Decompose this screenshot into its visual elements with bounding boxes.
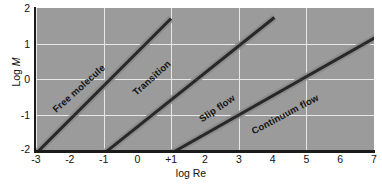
gridline-horizontal <box>36 44 374 45</box>
x-tick-label: 7 <box>362 153 382 165</box>
y-axis-line <box>34 7 36 152</box>
y-axis-label-text: Log <box>10 66 22 86</box>
x-tick-label: 0 <box>125 153 149 165</box>
x-axis-label: log Re <box>0 167 382 179</box>
x-tick-label: 6 <box>328 153 352 165</box>
plot-area: Free molecule Transition Slip flow Conti… <box>36 8 374 150</box>
x-tick-label: 5 <box>294 153 318 165</box>
y-axis-label: Log M <box>10 42 22 102</box>
x-tick-label: -2 <box>58 153 82 165</box>
y-tick-label: -1 <box>10 109 30 121</box>
flow-regime-chart: Free molecule Transition Slip flow Conti… <box>0 0 382 184</box>
y-tick-label: 2 <box>10 2 30 14</box>
y-axis-label-symbol: M <box>10 57 22 66</box>
x-tick-label: 3 <box>227 153 251 165</box>
x-tick-label: -3 <box>24 153 48 165</box>
x-tick-label: 4 <box>261 153 285 165</box>
x-tick-label: 2 <box>193 153 217 165</box>
x-tick-label: +1 <box>159 153 183 165</box>
regime-label-transition: Transition <box>130 58 173 98</box>
boundary-line-slip-continuum <box>169 34 374 150</box>
x-tick-label: -1 <box>92 153 116 165</box>
